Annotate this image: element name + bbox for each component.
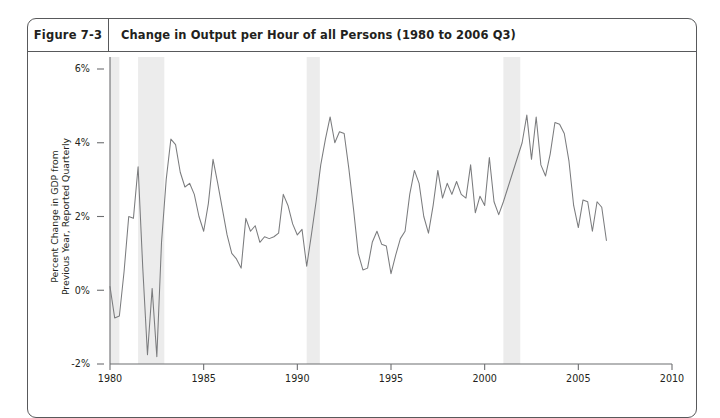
y-axis-title-line-1: Percent Change in GDP from [49,150,60,282]
chart-plot-region: -2%0%2%4%6%1980198519901995200020052010 … [28,52,696,417]
figure-number-cell: Figure 7-3 [28,19,109,51]
x-tick-label-1985: 1985 [191,373,215,384]
recession-band-3 [503,57,520,364]
y-tick-label-2%: 2% [75,211,90,222]
line-chart: -2%0%2%4%6%1980198519901995200020052010 … [28,52,698,417]
y-tick-label-0%: 0% [75,285,90,296]
x-tick-label-2000: 2000 [472,373,496,384]
y-axis-title: Percent Change in GDP fromPrevious Year,… [49,137,71,295]
y-tick-label-6%: 6% [75,63,90,74]
x-tick-label-2005: 2005 [566,373,590,384]
figure-caption-bar: Figure 7-3 Change in Output per Hour of … [28,19,696,52]
x-tick-label-1990: 1990 [285,373,309,384]
x-tick-label-2010: 2010 [660,373,684,384]
data-series-line [110,115,606,357]
chart-axes [110,57,672,364]
figure-title-text: Change in Output per Hour of all Persons… [121,28,516,42]
series-Change in Output per Hour of all Persons [110,115,606,357]
figure-number-label: Figure 7-3 [34,28,102,42]
figure-frame: Figure 7-3 Change in Output per Hour of … [27,18,697,418]
recession-band-1 [138,57,164,364]
y-axis-title-line-2: Previous Year, Reported Quarterly [60,137,71,295]
recession-band-2 [307,57,320,364]
x-tick-label-1995: 1995 [379,373,403,384]
y-tick-label-4%: 4% [75,137,90,148]
x-tick-label-1980: 1980 [98,373,122,384]
figure-title-cell: Change in Output per Hour of all Persons… [109,19,696,51]
y-tick-label--2%: -2% [71,358,90,369]
chart-tick-marks [97,69,672,370]
